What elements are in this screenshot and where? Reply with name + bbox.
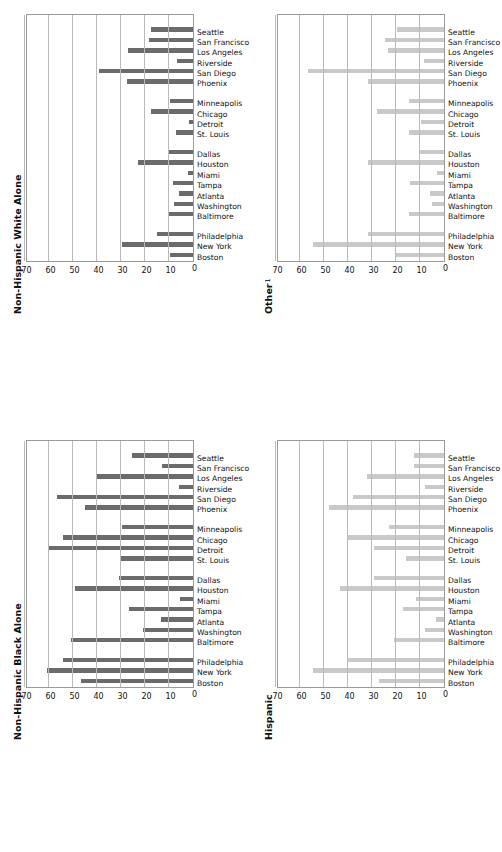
bar — [127, 79, 193, 83]
y-tick-label: 60 — [44, 692, 56, 722]
bar — [138, 160, 193, 164]
bar — [161, 617, 193, 621]
panel-non-hispanic-white-alone: Non-Hispanic White Alone 010203040506070… — [0, 0, 251, 426]
category-label: Chicago — [197, 536, 228, 545]
category-label: St. Louis — [197, 130, 229, 139]
y-tick-label: 10 — [164, 266, 176, 296]
bar — [389, 525, 444, 529]
panel-stage: Non-Hispanic Black Alone 010203040506070… — [12, 440, 208, 740]
category-label: Houston — [197, 160, 229, 169]
gridline — [96, 441, 97, 687]
bar — [409, 212, 444, 216]
bar — [313, 668, 444, 672]
bar — [128, 48, 193, 52]
bar — [170, 253, 193, 257]
bar — [409, 99, 444, 103]
category-label: Washington — [197, 628, 242, 637]
y-tick-label: 10 — [164, 692, 176, 722]
gridline — [48, 441, 49, 687]
bar — [151, 109, 193, 113]
category-label: Miami — [448, 597, 471, 606]
category-label: San Diego — [448, 69, 487, 78]
category-label: Detroit — [448, 120, 474, 129]
bar — [368, 79, 444, 83]
bar — [436, 617, 444, 621]
bar — [437, 171, 444, 175]
bar — [151, 27, 193, 31]
y-tick-label: 40 — [343, 266, 355, 296]
gridline — [419, 441, 420, 687]
category-label: Houston — [197, 586, 229, 595]
category-label: Seattle — [448, 28, 475, 37]
category-label: Washington — [448, 202, 493, 211]
category-label: Los Angeles — [197, 474, 242, 483]
category-label: San Diego — [197, 69, 236, 78]
y-tick-label: 0 — [439, 266, 451, 296]
category-label: Seattle — [448, 454, 475, 463]
y-tick-label: 30 — [116, 692, 128, 722]
gridline — [168, 15, 169, 261]
category-label: San Francisco — [197, 464, 249, 473]
category-label: Phoenix — [448, 506, 478, 515]
category-label: Riverside — [197, 59, 232, 68]
plot-area — [277, 14, 445, 262]
category-label: Miami — [197, 597, 220, 606]
bar — [162, 464, 193, 468]
bar — [379, 679, 444, 683]
category-label: San Francisco — [448, 38, 500, 47]
category-label: Philadelphia — [448, 658, 494, 667]
category-label: Boston — [197, 253, 223, 262]
gridline — [168, 441, 169, 687]
gridline — [395, 441, 396, 687]
category-label: Tampa — [197, 181, 222, 190]
bar — [308, 69, 444, 73]
y-tick-label: 50 — [68, 266, 80, 296]
bar — [75, 586, 193, 590]
category-label: Tampa — [448, 607, 473, 616]
bar — [416, 597, 444, 601]
bar — [174, 202, 193, 206]
gridline — [323, 441, 324, 687]
bar — [119, 576, 193, 580]
bar — [189, 120, 193, 124]
category-label: Miami — [448, 171, 471, 180]
category-label: Seattle — [197, 454, 224, 463]
bar — [424, 59, 444, 63]
y-axis-tick-labels: 010203040506070 — [277, 264, 445, 314]
y-tick-label: 20 — [140, 692, 152, 722]
y-tick-label: 10 — [415, 692, 427, 722]
y-tick-label: 30 — [367, 266, 379, 296]
gridline — [395, 15, 396, 261]
bar — [180, 597, 193, 601]
panel-non-hispanic-black-alone: Non-Hispanic Black Alone 010203040506070… — [0, 426, 251, 852]
gridline — [144, 15, 145, 261]
category-label: Atlanta — [448, 192, 475, 201]
category-label: Tampa — [448, 181, 473, 190]
x-axis-category-labels: BostonNew YorkPhiladelphiaBaltimoreWashi… — [446, 14, 502, 262]
gridline — [72, 15, 73, 261]
category-label: Minneapolis — [197, 99, 242, 108]
category-label: St. Louis — [197, 556, 229, 565]
category-label: New York — [197, 242, 232, 251]
category-label: San Diego — [448, 495, 487, 504]
y-tick-label: 0 — [188, 692, 200, 722]
category-label: Washington — [197, 202, 242, 211]
y-axis-tick-labels: 010203040506070 — [277, 690, 445, 740]
y-tick-label: 70 — [20, 692, 32, 722]
bar — [368, 232, 444, 236]
category-label: Detroit — [197, 546, 223, 555]
category-label: Baltimore — [197, 638, 234, 647]
panel-hispanic: Hispanic 010203040506070 BostonNew YorkP… — [251, 426, 502, 852]
bar — [367, 474, 444, 478]
category-label: Detroit — [197, 120, 223, 129]
panel-stage: Non-Hispanic White Alone 010203040506070… — [12, 14, 208, 314]
category-label: Philadelphia — [197, 658, 243, 667]
bar — [188, 171, 193, 175]
gridline — [24, 441, 25, 687]
gridline — [419, 15, 420, 261]
category-label: San Francisco — [197, 38, 249, 47]
x-axis-category-labels: BostonNew YorkPhiladelphiaBaltimoreWashi… — [195, 14, 255, 262]
bar — [63, 535, 193, 539]
category-label: Houston — [448, 160, 480, 169]
bar — [176, 130, 193, 134]
